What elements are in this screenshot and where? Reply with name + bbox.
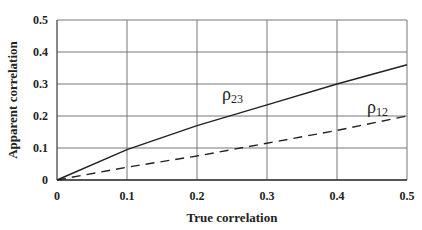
x-tick-label: 0	[54, 189, 60, 203]
x-tick-label: 0.4	[330, 189, 345, 203]
y-tick-label: 0.2	[33, 109, 48, 123]
x-axis-label: True correlation	[187, 210, 279, 225]
line-chart: 00.10.20.30.40.5 00.10.20.30.40.5 ρ23ρ12…	[0, 0, 422, 230]
series-labels: ρ23ρ12	[222, 84, 388, 119]
x-tick-label: 0.5	[400, 189, 415, 203]
data-series	[57, 65, 407, 180]
y-tick-label: 0	[42, 173, 48, 187]
y-tick-label: 0.4	[33, 45, 48, 59]
series-label-ρ12: ρ12	[367, 97, 388, 119]
x-tick-label: 0.1	[120, 189, 135, 203]
x-tick-labels: 00.10.20.30.40.5	[54, 189, 415, 203]
y-tick-labels: 00.10.20.30.40.5	[33, 13, 48, 187]
series-line-ρ23	[57, 65, 407, 180]
y-tick-label: 0.3	[33, 77, 48, 91]
series-label-ρ23: ρ23	[222, 84, 243, 106]
x-tick-label: 0.3	[260, 189, 275, 203]
y-axis-label: Apparent correlation	[5, 40, 20, 158]
y-tick-label: 0.5	[33, 13, 48, 27]
x-tick-label: 0.2	[190, 189, 205, 203]
y-tick-label: 0.1	[33, 141, 48, 155]
